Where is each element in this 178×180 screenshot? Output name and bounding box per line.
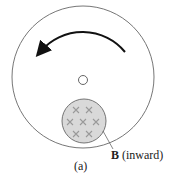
caption: (a): [74, 159, 87, 173]
field-direction: (inward): [122, 148, 163, 162]
svg-text:B(inward): B(inward): [111, 148, 163, 162]
field-symbol: B: [111, 148, 119, 162]
diagram: B(inward) (a): [0, 0, 178, 180]
axle-hole: [79, 76, 88, 85]
